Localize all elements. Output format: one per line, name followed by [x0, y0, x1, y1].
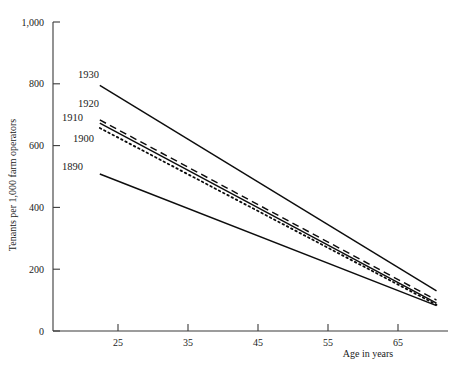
series-label-1930: 1930: [78, 69, 99, 80]
series-label-1910: 1910: [62, 112, 83, 123]
x-axis-tick-labels: 2535455565: [113, 337, 403, 348]
y-axis-title: Tenants per 1,000 farm operators: [7, 119, 18, 251]
series-line-1930: [100, 85, 437, 290]
series-line-1910: [100, 123, 437, 303]
y-tick-label-200: 200: [29, 264, 44, 275]
x-tick-label-55: 55: [323, 337, 333, 348]
x-axis-title: Age in years: [343, 348, 394, 359]
y-tick-label-0: 0: [39, 326, 44, 337]
chart-container: 02004006008001,000 2535455565 1930192019…: [0, 0, 455, 371]
y-axis-ticks: [53, 22, 60, 331]
series-line-1890: [100, 174, 437, 306]
y-tick-label-600: 600: [29, 140, 44, 151]
series-line-1900: [100, 128, 437, 305]
series-label-1920: 1920: [78, 98, 99, 109]
x-tick-label-65: 65: [393, 337, 403, 348]
y-axis-tick-labels: 02004006008001,000: [22, 17, 45, 337]
x-tick-label-35: 35: [183, 337, 193, 348]
x-tick-label-45: 45: [253, 337, 263, 348]
y-tick-label-1,000: 1,000: [22, 17, 45, 28]
y-tick-label-400: 400: [29, 202, 44, 213]
y-tick-label-800: 800: [29, 78, 44, 89]
series-lines: [100, 85, 437, 305]
series-label-1890: 1890: [62, 161, 83, 172]
series-line-1920: [100, 120, 437, 300]
line-chart: 02004006008001,000 2535455565 1930192019…: [0, 0, 455, 371]
x-axis-ticks: [118, 324, 398, 331]
series-labels: 19301920191019001890: [62, 69, 99, 172]
x-tick-label-25: 25: [113, 337, 123, 348]
series-label-1900: 1900: [73, 133, 94, 144]
